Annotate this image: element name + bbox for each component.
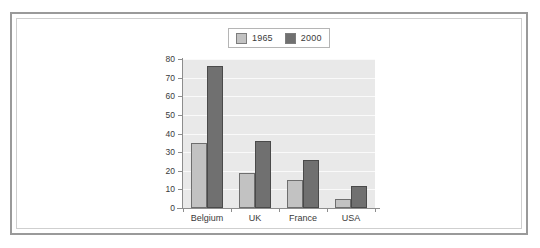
y-axis-tick-mark bbox=[178, 171, 182, 172]
legend-entry: 1965 bbox=[236, 33, 273, 44]
y-axis-tick-label: 20 bbox=[153, 167, 175, 176]
y-axis-tick-mark bbox=[178, 115, 182, 116]
legend-label: 2000 bbox=[301, 34, 322, 43]
x-axis-tick-mark bbox=[231, 208, 232, 212]
y-axis-line bbox=[182, 58, 183, 209]
y-axis-tick-mark bbox=[178, 189, 182, 190]
y-axis-tick-label: 70 bbox=[153, 74, 175, 83]
gridline bbox=[183, 59, 375, 60]
x-axis-tick-mark bbox=[183, 208, 184, 212]
bar-belgium-1965 bbox=[191, 143, 207, 208]
y-axis-tick-mark bbox=[178, 78, 182, 79]
legend-entry: 2000 bbox=[285, 33, 322, 44]
y-axis-tick-mark bbox=[178, 96, 182, 97]
bar-uk-2000 bbox=[255, 141, 271, 208]
x-axis-tick-mark bbox=[327, 208, 328, 212]
bar-belgium-2000 bbox=[207, 66, 223, 208]
y-axis-tick-label: 50 bbox=[153, 111, 175, 120]
bar-chart-figure: 19652000 01020304050607080 BelgiumUKFran… bbox=[0, 0, 540, 248]
bar-uk-1965 bbox=[239, 173, 255, 208]
y-axis-tick-mark bbox=[178, 208, 182, 209]
y-axis-tick-mark bbox=[178, 152, 182, 153]
y-axis-tick-mark bbox=[178, 134, 182, 135]
legend-swatch bbox=[285, 33, 296, 44]
y-axis-tick-mark bbox=[178, 59, 182, 60]
bar-usa-1965 bbox=[335, 199, 351, 208]
y-axis-tick-label: 80 bbox=[153, 55, 175, 64]
y-axis-tick-label: 40 bbox=[153, 130, 175, 139]
legend-label: 1965 bbox=[252, 34, 273, 43]
x-axis-category-label: USA bbox=[321, 214, 381, 223]
y-axis-tick-label: 30 bbox=[153, 148, 175, 157]
bar-usa-2000 bbox=[351, 186, 367, 208]
legend-swatch bbox=[236, 33, 247, 44]
bar-france-2000 bbox=[303, 160, 319, 208]
screenshot-root: 19652000 01020304050607080 BelgiumUKFran… bbox=[0, 0, 540, 248]
x-axis-tick-mark bbox=[279, 208, 280, 212]
y-axis-tick-label: 60 bbox=[153, 92, 175, 101]
y-axis-tick-label: 10 bbox=[153, 185, 175, 194]
bar-france-1965 bbox=[287, 180, 303, 208]
chart-legend: 19652000 bbox=[228, 28, 330, 48]
x-axis-tick-mark bbox=[375, 208, 376, 212]
y-axis-tick-label: 0 bbox=[153, 204, 175, 213]
